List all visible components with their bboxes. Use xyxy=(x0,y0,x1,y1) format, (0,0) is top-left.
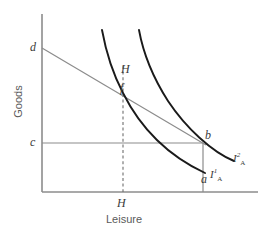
label-point-f: f xyxy=(120,82,123,94)
indifference-curve-diagram: d c H f b a H I2A I1A Leisure Goods xyxy=(0,0,261,232)
label-point-b: b xyxy=(205,129,211,141)
label-point-d: d xyxy=(30,41,36,53)
y-axis-title: Goods xyxy=(13,72,24,132)
indifference-curve-i2a xyxy=(139,30,234,161)
diagram-canvas xyxy=(0,0,261,232)
label-point-c: c xyxy=(30,136,35,148)
label-curve-i2a: I2A xyxy=(233,152,245,167)
label-hours-H-top: H xyxy=(121,63,130,75)
curve-i1a-subscript: A xyxy=(217,175,222,183)
curve-i2a-superscript: 2 xyxy=(237,151,241,159)
curve-i2a-subscript: A xyxy=(240,159,245,167)
x-axis-title: Leisure xyxy=(106,214,142,225)
label-curve-i1a: I1A xyxy=(210,168,222,183)
label-point-a: a xyxy=(201,173,207,185)
label-hours-H-axis: H xyxy=(117,197,126,209)
indifference-curve-i1a xyxy=(102,30,205,173)
curve-i1a-superscript: 1 xyxy=(214,167,218,175)
